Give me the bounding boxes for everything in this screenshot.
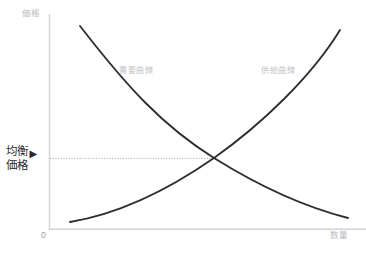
supply-demand-chart: 価格 数量 0 需要曲線 供給曲線 均衡 価格 ▶ xyxy=(0,0,366,255)
equilibrium-price-line1: 均衡 xyxy=(6,145,28,159)
supply-curve xyxy=(70,30,340,222)
supply-curve-label: 供給曲線 xyxy=(261,67,295,75)
demand-curve-label: 需要曲線 xyxy=(119,67,153,75)
equilibrium-price-line2: 価格 xyxy=(6,159,28,173)
chart-graphics xyxy=(0,0,366,255)
x-axis-title: 数量 xyxy=(330,231,349,240)
triangle-right-icon: ▶ xyxy=(29,149,37,160)
y-axis-title: 価格 xyxy=(22,9,41,18)
equilibrium-price-label: 均衡 価格 ▶ xyxy=(6,145,37,172)
demand-curve xyxy=(80,26,348,218)
equilibrium-price-text: 均衡 価格 xyxy=(6,145,28,172)
origin-label: 0 xyxy=(41,231,46,240)
